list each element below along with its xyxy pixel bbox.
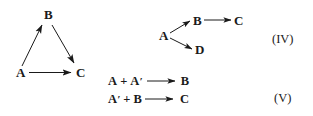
triangle-edge-a-to-b xyxy=(22,25,42,66)
iv-edge-a-to-d xyxy=(170,38,192,49)
v-equation-2: A ′ + B C xyxy=(108,93,189,106)
triangle-edge-b-to-c xyxy=(52,25,74,63)
scheme-label-v: (V) xyxy=(274,92,291,105)
iv-edge-a-to-b xyxy=(170,21,190,33)
scheme-label-iv: (IV) xyxy=(272,33,294,46)
iv-node-c: C xyxy=(234,14,243,27)
v-eq1-reactant-aprime: A xyxy=(130,75,139,88)
v-eq2-plus: + xyxy=(123,93,130,106)
v-equation-1: A + A ′ B xyxy=(108,75,189,88)
v-eq1-product-b: B xyxy=(181,75,190,88)
iv-node-b: B xyxy=(193,14,202,27)
v-eq2-reactant-b: B xyxy=(133,93,142,106)
v-eq1-plus: + xyxy=(120,75,127,88)
v-eq1-reactant-a: A xyxy=(108,75,117,88)
figure-canvas: B A C A B C D (IV) A + A ′ B A ′ + B C (… xyxy=(0,0,313,116)
triangle-node-b: B xyxy=(44,8,53,21)
triangle-node-a: A xyxy=(16,66,25,79)
v-eq2-reactant-aprime: A xyxy=(108,93,117,106)
v-eq2-product-c: C xyxy=(180,93,189,106)
iv-node-d: D xyxy=(195,43,204,56)
triangle-node-c: C xyxy=(76,66,85,79)
iv-node-a: A xyxy=(159,29,168,42)
